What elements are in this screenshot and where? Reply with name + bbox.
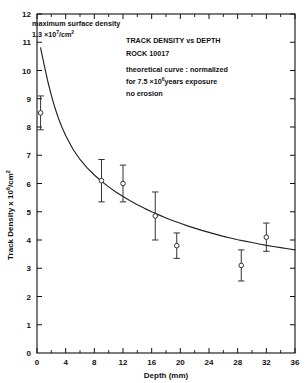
y-tick-label: 3: [27, 264, 32, 273]
x-tick-label: 12: [119, 358, 128, 367]
y-tick-label: 6: [27, 180, 32, 189]
chart-figure: 048121620242832361234567891011120 Track …: [0, 0, 308, 383]
y-tick-label: 2: [27, 293, 32, 302]
y-tick-label: 11: [23, 38, 32, 47]
chart-title: TRACK DENSITY vs DEPTH: [126, 36, 221, 45]
x-tick-label: 0: [35, 358, 40, 367]
y-tick-label: 8: [27, 123, 32, 132]
y-tick-label: 1: [27, 321, 32, 330]
data-point-marker: [38, 111, 43, 116]
note-line-normalized: theoretical curve : normalized: [126, 65, 228, 74]
x-tick-label: 24: [205, 358, 214, 367]
x-tick-label: 20: [176, 358, 185, 367]
x-axis-title: Depth (mm): [144, 371, 189, 380]
note-line-no-erosion: no erosion: [126, 89, 163, 98]
surface-density-line1: maximum surface density: [32, 19, 120, 28]
y-tick-label: 9: [27, 95, 32, 104]
y-tick-label: 7: [27, 151, 32, 160]
x-tick-label: 36: [291, 358, 300, 367]
x-tick-label: 8: [92, 358, 97, 367]
data-point-marker: [99, 178, 104, 183]
x-tick-label: 28: [233, 358, 242, 367]
surface-density-line2: 1.3 ×107/cm2: [32, 29, 74, 40]
data-point-marker: [121, 181, 126, 186]
y-tick-label: 12: [22, 10, 31, 19]
x-tick-label: 4: [63, 358, 68, 367]
x-tick-label: 16: [147, 358, 156, 367]
y-tick-label: 4: [27, 236, 32, 245]
track-density-vs-depth-chart: 048121620242832361234567891011120 Track …: [0, 0, 308, 383]
data-point-marker: [153, 214, 158, 219]
data-point-marker: [174, 243, 179, 248]
y-axis-title-text: Track Density x 106/cm2: [5, 170, 15, 260]
data-point-marker: [239, 263, 244, 268]
data-point-marker: [264, 235, 269, 240]
y-tick-label: 5: [27, 208, 32, 217]
x-tick-label: 32: [262, 358, 271, 367]
y-tick-label: 10: [22, 67, 31, 76]
y-axis-title: Track Density x 106/cm2: [5, 170, 15, 260]
note-line-exposure: for 7.5 ×106years exposure: [126, 76, 217, 87]
y-tick-label-zero: 0: [27, 349, 32, 358]
chart-subtitle: ROCK 10017: [126, 49, 169, 58]
